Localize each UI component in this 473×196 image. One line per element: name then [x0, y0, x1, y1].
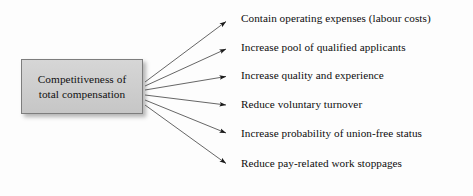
arrow-to-outcome-6: [145, 105, 226, 164]
arrow-group: [145, 22, 226, 164]
arrow-to-outcome-4: [145, 95, 226, 105]
arrow-to-outcome-3: [145, 77, 226, 91]
arrow-to-outcome-2: [145, 49, 226, 86]
outcome-label-4: Reduce voluntary turnover: [241, 98, 362, 111]
outcome-label-6: Reduce pay-related work stoppages: [241, 157, 402, 170]
outcome-label-3: Increase quality and experience: [241, 69, 384, 82]
arrow-to-outcome-5: [145, 100, 226, 133]
diagram-canvas: Competitiveness of total compensation Co…: [0, 0, 473, 196]
arrow-to-outcome-1: [145, 22, 226, 83]
outcome-label-2: Increase pool of qualified applicants: [241, 41, 406, 54]
outcome-label-5: Increase probability of union-free statu…: [241, 127, 422, 140]
source-node-label: Competitiveness of total compensation: [38, 72, 126, 101]
outcome-label-1: Contain operating expenses (labour costs…: [241, 12, 431, 25]
source-node: Competitiveness of total compensation: [21, 59, 143, 114]
